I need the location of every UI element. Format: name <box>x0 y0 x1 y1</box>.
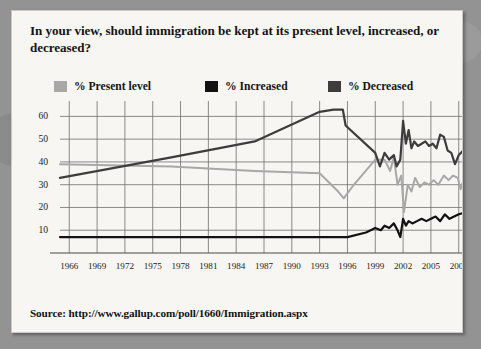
screenshot-root: In your view, should immigration be kept… <box>0 0 481 349</box>
legend-swatch-present-level <box>54 81 67 92</box>
legend-label-increased: % Increased <box>225 80 288 93</box>
source-caption: Source: http://www.gallup.com/poll/1660/… <box>30 307 308 319</box>
chart-card: In your view, should immigration be kept… <box>11 10 463 333</box>
page-title: In your view, should immigration be kept… <box>30 23 444 56</box>
legend-label-decreased: % Decreased <box>348 80 413 93</box>
y-axis-tick-label: 20 <box>26 201 48 212</box>
x-axis-tick-label: 2008 <box>442 261 463 271</box>
legend-swatch-decreased <box>328 81 341 92</box>
legend-label-present-level: % Present level <box>74 80 151 93</box>
chart-legend: % Present level % Increased % Decreased <box>38 77 450 95</box>
y-axis-tick-label: 50 <box>26 133 48 144</box>
y-axis-tick-label: 60 <box>26 110 48 121</box>
legend-item-present-level: % Present level <box>54 77 151 95</box>
chart-plot-area: 1020304050601966196919721975197819811984… <box>12 99 463 295</box>
legend-item-decreased: % Decreased <box>328 77 413 95</box>
y-axis-tick-label: 40 <box>26 156 48 167</box>
legend-swatch-increased <box>205 81 218 92</box>
y-axis-tick-label: 10 <box>26 224 48 235</box>
legend-item-increased: % Increased <box>205 77 288 95</box>
y-axis-tick-label: 30 <box>26 179 48 190</box>
